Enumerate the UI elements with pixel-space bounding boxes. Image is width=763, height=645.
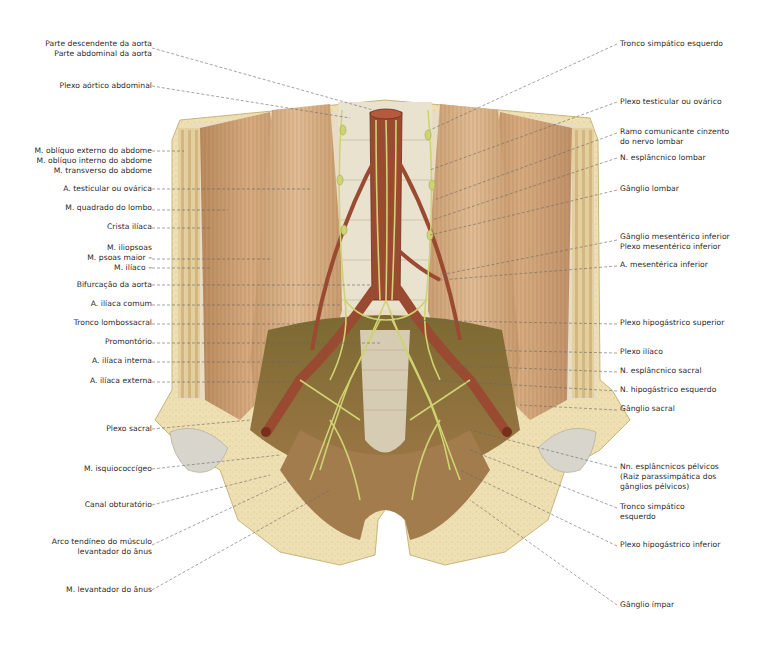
label-line: Tronco simpático	[620, 502, 685, 512]
label-abdominal-aortic-plexus: Plexo aórtico abdominal	[60, 81, 152, 91]
anatomy-figure: Parte descendente da aorta Parte abdomin…	[0, 0, 763, 645]
label-line: Gânglio sacral	[620, 404, 675, 414]
label-left-hypogastric-nerve: N. hipogástrico esquerdo	[620, 385, 716, 395]
label-external-iliac-artery: A. ilíaca externa	[90, 376, 152, 386]
label-sacral-ganglion: Gânglio sacral	[620, 404, 675, 414]
label-iliac-crest: Crista ilíaca	[107, 222, 152, 232]
label-lumbosacral-trunk: Tronco lombossacral	[74, 318, 152, 328]
label-line: gânglios pélvicos)	[620, 482, 719, 492]
label-line: N. hipogástrico esquerdo	[620, 385, 716, 395]
label-tendinous-arch: Arco tendíneo do músculo levantador do â…	[52, 537, 152, 557]
label-line: Ramo comunicante cinzento	[620, 127, 729, 137]
label-sacral-plexus: Plexo sacral	[106, 424, 152, 434]
label-inferior-mesenteric-ganglion: Gânglio mesentérico inferior Plexo mesen…	[620, 232, 730, 252]
label-line: M. oblíquo interno do abdome	[34, 156, 152, 166]
label-line: esquerdo	[620, 512, 685, 522]
label-line: M. iliopsoas	[87, 243, 152, 253]
label-abdominal-muscles: M. oblíquo externo do abdome M. oblíquo …	[34, 146, 152, 176]
label-line: Gânglio lombar	[620, 184, 679, 194]
label-line: Tronco lombossacral	[74, 318, 152, 328]
label-line: Tronco simpático esquerdo	[620, 39, 723, 49]
label-line: Gânglio mesentérico inferior	[620, 232, 730, 242]
label-internal-iliac-artery: A. ilíaca interna	[92, 356, 152, 366]
label-line: Parte descendente da aorta	[45, 39, 152, 49]
label-line: Plexo hipogástrico inferior	[620, 540, 720, 550]
label-line: Bifurcação da aorta	[77, 280, 152, 290]
label-levator-ani: M. levantador do ânus	[66, 585, 152, 595]
label-line: do nervo lombar	[620, 137, 729, 147]
label-line: N. esplâncnico sacral	[620, 366, 702, 376]
label-line: A. mesentérica inferior	[620, 260, 708, 270]
label-line: M. quadrado do lombo	[65, 203, 152, 213]
label-ganglion-impar: Gânglio ímpar	[620, 600, 674, 610]
label-left-sympathetic-trunk-lower: Tronco simpático esquerdo	[620, 502, 685, 522]
label-line: (Raiz parassimpática dos	[620, 472, 719, 482]
label-line: Promontório	[105, 337, 152, 347]
label-testicular-plexus: Plexo testicular ou ovárico	[620, 97, 722, 107]
label-superior-hypogastric-plexus: Plexo hipogástrico superior	[620, 318, 724, 328]
label-quadratus-lumborum: M. quadrado do lombo	[65, 203, 152, 213]
label-pelvic-splanchnic: Nn. esplâncnicos pélvicos (Raiz parassim…	[620, 462, 719, 492]
label-line: M. psoas maior –	[87, 253, 152, 263]
label-line: Plexo hipogástrico superior	[620, 318, 724, 328]
label-line: Plexo mesentérico inferior	[620, 242, 730, 252]
label-line: Nn. esplâncnicos pélvicos	[620, 462, 719, 472]
label-line: Plexo testicular ou ovárico	[620, 97, 722, 107]
label-line: M. oblíquo externo do abdome	[34, 146, 152, 156]
label-left-sympathetic-trunk: Tronco simpático esquerdo	[620, 39, 723, 49]
label-line: Canal obturatório	[85, 500, 152, 510]
label-line: N. esplâncnico lombar	[620, 153, 706, 163]
label-aorta: Parte descendente da aorta Parte abdomin…	[45, 39, 152, 59]
label-promontory: Promontório	[105, 337, 152, 347]
label-testicular-artery: A. testicular ou ovárica	[63, 184, 152, 194]
label-line: M. isquiococcígeo	[84, 464, 152, 474]
label-line: Plexo aórtico abdominal	[60, 81, 152, 91]
label-gray-ramus: Ramo comunicante cinzento do nervo lomba…	[620, 127, 729, 147]
label-line: A. testicular ou ovárica	[63, 184, 152, 194]
label-line: Parte abdominal da aorta	[45, 49, 152, 59]
label-line: M. ilíaco –	[87, 263, 152, 273]
label-common-iliac-artery: A. ilíaca comum	[91, 299, 152, 309]
label-inferior-hypogastric-plexus: Plexo hipogástrico inferior	[620, 540, 720, 550]
label-obturator-canal: Canal obturatório	[85, 500, 152, 510]
label-ischiococcygeus: M. isquiococcígeo	[84, 464, 152, 474]
label-lumbar-ganglion: Gânglio lombar	[620, 184, 679, 194]
label-line: M. transverso do abdome	[34, 166, 152, 176]
label-line: levantador do ânus	[52, 547, 152, 557]
label-line: Gânglio ímpar	[620, 600, 674, 610]
label-iliopsoas: M. iliopsoas M. psoas maior – M. ilíaco …	[87, 243, 152, 273]
label-line: A. ilíaca comum	[91, 299, 152, 309]
label-sacral-splanchnic: N. esplâncnico sacral	[620, 366, 702, 376]
label-line: A. ilíaca externa	[90, 376, 152, 386]
label-line: Arco tendíneo do músculo	[52, 537, 152, 547]
label-lumbar-splanchnic: N. esplâncnico lombar	[620, 153, 706, 163]
label-inferior-mesenteric-artery: A. mesentérica inferior	[620, 260, 708, 270]
label-line: M. levantador do ânus	[66, 585, 152, 595]
label-aortic-bifurcation: Bifurcação da aorta	[77, 280, 152, 290]
label-line: A. ilíaca interna	[92, 356, 152, 366]
label-line: Plexo sacral	[106, 424, 152, 434]
label-iliac-plexus: Plexo ilíaco	[620, 347, 663, 357]
label-line: Plexo ilíaco	[620, 347, 663, 357]
label-line: Crista ilíaca	[107, 222, 152, 232]
